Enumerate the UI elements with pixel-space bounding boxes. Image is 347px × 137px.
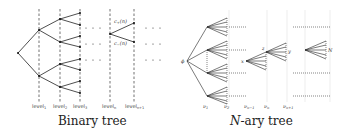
nu-label-2: ν2 <box>224 103 230 110</box>
x-node-label: x <box>241 58 244 64</box>
nu-labels: ν1 ν2 νn−1 νn νn+1 <box>203 103 293 110</box>
root-phi-label: ϕ <box>181 58 185 65</box>
nu-label-1: ν1 <box>203 103 208 110</box>
binary-tree-title: Binary tree <box>58 114 127 128</box>
c-minus-label: c−(n) <box>114 40 127 47</box>
nary-title-n: N <box>230 114 241 128</box>
level-label-n-plus-1: leveln+1 <box>125 103 144 110</box>
nu-label-n-minus-1: νn−1 <box>244 103 254 110</box>
y-node-label: y <box>287 48 291 55</box>
level-label-2: level2 <box>53 103 67 110</box>
c-plus-label: c+(n) <box>114 18 127 25</box>
binary-tree-edges <box>18 13 134 93</box>
nu-label-n: νn <box>264 103 270 110</box>
faint-level-lines <box>229 10 330 102</box>
nary-title-suffix: -ary tree <box>241 114 293 128</box>
level-labels: level1 level2 level3 leveln leveln+1 <box>32 103 144 110</box>
level-label-1: level1 <box>32 103 46 110</box>
z-node-label: z <box>261 45 265 51</box>
level-label-n: leveln <box>102 103 116 110</box>
child-labels: c+(n) c−(n) <box>114 18 127 47</box>
nu-label-n-plus-1: νn+1 <box>283 103 293 110</box>
level-label-3: level3 <box>73 103 87 110</box>
N-node-label: N <box>327 47 333 53</box>
nary-tree-title: N-ary tree <box>230 114 293 128</box>
